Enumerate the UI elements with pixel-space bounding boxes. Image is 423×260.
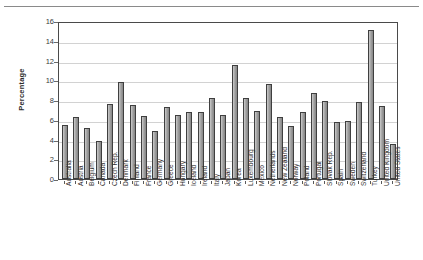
x-axis-tick-label: Italy [214,174,221,186]
gridline [59,102,397,103]
x-axis-tick-label: Iceland [191,165,198,186]
x-axis-tick-mark [211,181,212,184]
y-axis-tick-label: 0 [28,176,54,184]
x-axis-tick-mark [347,181,348,184]
x-axis-tick-label: Norway [293,164,300,186]
x-axis-tick-label: Mexico [259,165,266,186]
x-axis-tick-label: Canada [100,163,107,186]
x-axis-tick-label: Finland [134,164,141,186]
x-axis-tick-mark [177,181,178,184]
x-axis-tick-label: Spain [338,169,345,186]
x-axis-tick-mark [143,181,144,184]
x-axis-tick-label: Poland [304,165,311,186]
gridline [59,43,397,44]
y-axis-tick-label: 4 [28,137,54,145]
x-axis-tick-label: New Zealand [282,147,289,186]
y-axis-tick-label: 8 [28,97,54,105]
x-axis-tick-label: Australia [66,160,73,186]
x-axis-tick-mark [313,181,314,184]
x-axis-tick-label: United States [395,146,402,186]
x-axis-tick-label: Greece [168,164,175,186]
x-axis-tick-label: Luxembourg [248,149,255,186]
x-axis-tick-label: Switzerland [361,152,368,186]
x-axis-tick-label: Slovak Rep. [327,150,334,186]
plot-area [58,22,398,180]
x-axis-tick-label: Portugal [316,161,323,186]
y-axis-tick-label: 2 [28,156,54,164]
x-axis-tick-label: Denmark [123,159,130,186]
x-axis-tick-mark [75,181,76,184]
x-axis-tick-label: Japan [225,168,232,186]
x-axis-tick-label: Austria [78,165,85,186]
y-axis-tick-mark [54,180,58,181]
gridline [59,63,397,64]
x-axis-tick-label: United Kingdom [384,139,391,186]
x-axis-tick-label: Germany [157,159,164,186]
figure: Percentage 0246810121416 AustraliaAustri… [0,0,423,260]
y-axis-tick-label: 16 [28,18,54,26]
x-axis-tick-mark [381,181,382,184]
x-axis-tick-mark [245,181,246,184]
y-axis-tick-label: 14 [28,38,54,46]
x-axis-tick-label: Hungary [180,161,187,186]
y-axis-tick-label: 6 [28,117,54,125]
x-axis-tick-label: Belgium [89,162,96,186]
bar [368,30,374,179]
y-axis-tick-label: 12 [28,58,54,66]
y-axis-tick-label: 10 [28,77,54,85]
x-axis-tick-mark [109,181,110,184]
gridline [59,82,397,83]
x-axis-tick-label: Netherlands [270,150,277,186]
top-divider-rule [4,6,419,7]
bar [232,65,238,179]
x-axis-tick-label: France [146,165,153,186]
x-axis-tick-mark [279,181,280,184]
x-axis-tick-label: Czech Rep. [112,152,119,186]
x-axis-tick-label: Turkey [372,166,379,186]
bar [209,98,215,179]
y-axis-title: Percentage [17,50,26,130]
x-axis-tick-label: Ireland [202,166,209,186]
x-axis-tick-label: Korea [236,168,243,186]
x-axis-tick-label: Sweden [350,162,357,186]
